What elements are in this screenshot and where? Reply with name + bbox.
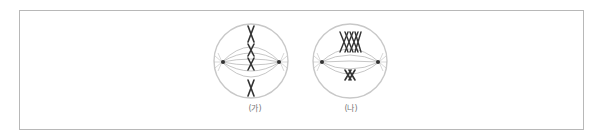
cell-diagram-na [311, 22, 389, 100]
meiosis-metaphase-cell [311, 22, 389, 100]
mitosis-metaphase-cell [212, 22, 290, 100]
panel-label-ga: (가) [240, 102, 270, 113]
cell-diagram-ga [212, 22, 290, 100]
panel-label-na: (나) [336, 102, 366, 113]
figure-frame [19, 10, 584, 130]
